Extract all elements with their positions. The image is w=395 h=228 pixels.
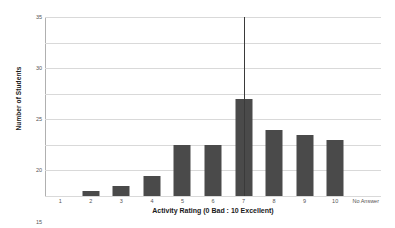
bar[interactable] [204, 145, 221, 196]
bar[interactable] [174, 145, 191, 196]
bar-slot [106, 17, 137, 196]
bar[interactable] [296, 135, 313, 196]
bar-slot [45, 17, 76, 196]
y-axis-title: Number of Students [10, 0, 28, 196]
y-axis-tick-label: 20 [36, 167, 42, 173]
y-axis-tick-label: 25 [36, 116, 42, 122]
y-axis-tick-label: 30 [36, 65, 42, 71]
bar-slot [350, 17, 381, 196]
x-axis-tick-label: No Answer [352, 198, 379, 204]
bar-slot [167, 17, 198, 196]
x-axis-tick-label: 3 [120, 198, 123, 204]
y-axis-title-label: Number of Students [16, 66, 23, 130]
x-axis-title: Activity Rating (0 Bad : 10 Excellent) [45, 207, 381, 214]
bar[interactable] [82, 191, 99, 196]
bar-slot [289, 17, 320, 196]
bar[interactable] [266, 130, 283, 196]
gridline: 0 [45, 196, 381, 197]
x-axis-tick-label: 1 [59, 198, 62, 204]
y-axis-tick-label: 15 [36, 219, 42, 225]
x-axis-tick-label: 8 [273, 198, 276, 204]
bar-series [45, 17, 381, 196]
x-axis-tick-label: 7 [242, 198, 245, 204]
plot-area: 05101520253035 [45, 17, 381, 196]
bar[interactable] [113, 186, 130, 196]
x-axis-tick-label: 9 [303, 198, 306, 204]
x-axis-tick-label: 6 [211, 198, 214, 204]
bar-chart: Number of Students 05101520253035 123456… [0, 0, 395, 228]
bar-slot [198, 17, 229, 196]
bar[interactable] [143, 176, 160, 196]
x-axis-tick-label: 2 [89, 198, 92, 204]
bar-slot [320, 17, 351, 196]
x-axis-tick-label: 4 [150, 198, 153, 204]
x-axis-tick-label: 10 [332, 198, 338, 204]
y-axis-tick-label: 35 [36, 14, 42, 20]
bar-slot [259, 17, 290, 196]
bar-slot [137, 17, 168, 196]
bar[interactable] [327, 140, 344, 196]
bar-slot [76, 17, 107, 196]
annotation-vertical-line [244, 17, 245, 196]
x-axis-tick-label: 5 [181, 198, 184, 204]
